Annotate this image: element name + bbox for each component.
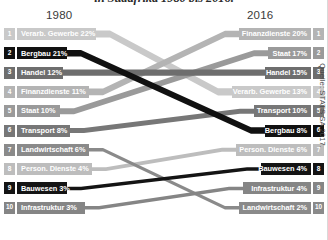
sector-label-staat: Staat 17% [268,47,311,59]
rank-row-bauwesen-1980[interactable]: 9Bauwesen 3% [4,182,67,194]
sector-label-bergbau: Bergbau 21% [17,47,67,59]
rank-row-verarb-gewerbe-2016[interactable]: 4Verarb. Gewerbe 13% [232,86,324,98]
sector-label-transport: Transport 10% [254,105,311,117]
rank-badge: 7 [4,144,15,156]
rank-row-bergbau-1980[interactable]: 2Bergbau 21% [4,47,67,59]
sector-label-infrastruktur: Infrastruktur 3% [17,202,85,214]
rank-badge: 2 [4,47,15,59]
sector-label-bauwesen: Bauwesen 3% [17,182,67,194]
source-note: Quelle: STATS SA 2017. [318,63,327,148]
sector-label-verarb-gewerbe: Verarb. Gewerbe 22% [17,28,96,40]
rank-badge: 5 [4,105,15,117]
sector-label-person-dienste: Person. Dienste 6% [236,144,311,156]
column-1980: 1Verarb. Gewerbe 22%2Bergbau 21%3Handel … [4,0,132,240]
infographic-root: in Südafrika 1980 bis 2016. 1980 2016 1V… [0,0,328,240]
sector-label-bergbau: Bergbau 8% [265,125,311,137]
rank-badge: 10 [4,202,15,214]
rank-row-staat-2016[interactable]: 2Staat 17% [268,47,324,59]
rank-row-handel-2016[interactable]: 3Handel 15% [265,67,324,79]
rank-row-verarb-gewerbe-1980[interactable]: 1Verarb. Gewerbe 22% [4,28,96,40]
rank-badge: 9 [4,182,15,194]
sector-label-handel: Handel 12% [17,67,63,79]
sector-label-landwirtschaft: Landwirtschaft 6% [17,144,89,156]
rank-row-transport-1980[interactable]: 6Transport 8% [4,125,70,137]
sector-label-transport: Transport 8% [17,125,70,137]
rank-row-bergbau-2016[interactable]: 6Bergbau 8% [265,125,324,137]
rank-row-handel-1980[interactable]: 3Handel 12% [4,67,63,79]
rank-row-transport-2016[interactable]: 5Transport 10% [254,105,324,117]
rank-badge: 1 [4,28,15,40]
sector-label-finanzdienste: Finanzdienste 20% [239,28,311,40]
rank-row-landwirtschaft-1980[interactable]: 7Landwirtschaft 6% [4,144,89,156]
rank-row-person-dienste-2016[interactable]: 7Person. Dienste 6% [236,144,324,156]
sector-label-bauwesen: Bauwesen 4% [261,163,311,175]
rank-row-staat-1980[interactable]: 5Staat 10% [4,105,60,117]
rank-badge: 3 [4,67,15,79]
rank-row-finanzdienste-2016[interactable]: 1Finanzdienste 20% [239,28,324,40]
rank-row-landwirtschaft-2016[interactable]: 10Landwirtschaft 2% [239,202,324,214]
sector-label-finanzdienste: Finanzdienste 11% [17,86,89,98]
rank-badge: 2 [313,47,324,59]
rank-row-finanzdienste-1980[interactable]: 4Finanzdienste 11% [4,86,89,98]
rank-badge: 6 [4,125,15,137]
sector-label-infrastruktur: Infrastruktur 4% [243,182,311,194]
sector-label-landwirtschaft: Landwirtschaft 2% [239,202,311,214]
rank-badge: 8 [313,163,324,175]
rank-badge: 4 [4,86,15,98]
rank-badge: 10 [313,202,324,214]
column-2016: 1Finanzdienste 20%2Staat 17%3Handel 15%4… [196,0,324,240]
sector-label-verarb-gewerbe: Verarb. Gewerbe 13% [232,86,311,98]
rank-badge: 8 [4,163,15,175]
sector-label-person-dienste: Person. Dienste 4% [17,163,92,175]
sector-label-handel: Handel 15% [265,67,311,79]
rank-row-infrastruktur-2016[interactable]: 9Infrastruktur 4% [243,182,324,194]
rank-badge: 9 [313,182,324,194]
rank-row-bauwesen-2016[interactable]: 8Bauwesen 4% [261,163,324,175]
rank-row-person-dienste-1980[interactable]: 8Person. Dienste 4% [4,163,92,175]
rank-badge: 1 [313,28,324,40]
rank-row-infrastruktur-1980[interactable]: 10Infrastruktur 3% [4,202,85,214]
sector-label-staat: Staat 10% [17,105,60,117]
